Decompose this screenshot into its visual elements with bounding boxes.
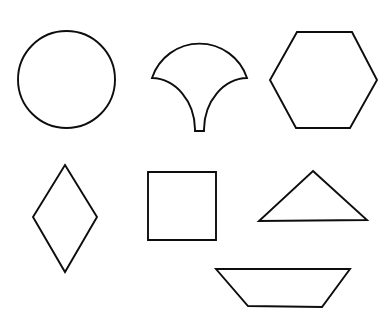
- shape-sheet: [0, 0, 388, 323]
- sheet-background: [0, 0, 388, 323]
- shape-canvas: [0, 0, 388, 323]
